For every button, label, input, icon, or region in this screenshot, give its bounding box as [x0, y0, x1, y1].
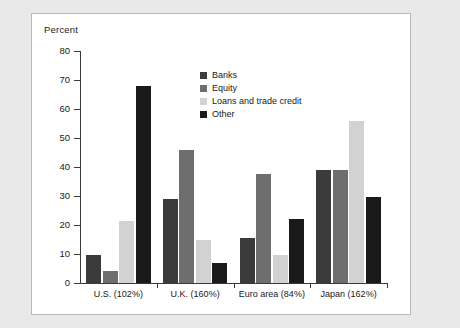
legend-item: Banks — [200, 69, 302, 81]
y-axis-tick-label: 20 — [59, 219, 70, 230]
bar-equity — [333, 170, 348, 283]
y-axis-tick-label: 0 — [65, 277, 70, 288]
x-axis-tick — [387, 283, 388, 288]
bar-banks — [316, 170, 331, 283]
x-axis-group-label: Japan (162%) — [310, 289, 387, 299]
bar-banks — [163, 199, 178, 283]
legend-label: Equity — [212, 83, 237, 93]
chart-legend: BanksEquityLoans and trade creditOther — [200, 69, 302, 121]
bar-banks — [240, 238, 255, 283]
bar-other — [289, 219, 304, 283]
bar-loans-and-trade-credit — [349, 121, 364, 283]
y-axis-tick-label: 30 — [59, 190, 70, 201]
bar-loans-and-trade-credit — [119, 221, 134, 283]
x-axis-group-label: U.K. (160%) — [157, 289, 234, 299]
y-axis-title: Percent — [44, 24, 78, 35]
x-axis-tick — [157, 283, 158, 288]
x-axis-tick — [234, 283, 235, 288]
bar-group: Japan (162%) — [310, 51, 387, 283]
legend-label: Other — [212, 109, 235, 119]
legend-label: Banks — [212, 70, 237, 80]
legend-item: Loans and trade credit — [200, 95, 302, 107]
y-axis-tick-label: 40 — [59, 161, 70, 172]
legend-swatch-icon — [200, 85, 207, 92]
y-axis-tick-label: 80 — [59, 45, 70, 56]
y-axis-tick-label: 60 — [59, 103, 70, 114]
page-background: Percent 01020304050607080 U.S. (102%)U.K… — [0, 0, 460, 328]
bar-loans-and-trade-credit — [196, 240, 211, 284]
bar-other — [136, 86, 151, 283]
y-axis-tick-label: 50 — [59, 132, 70, 143]
bar-equity — [256, 174, 271, 283]
chart-panel: Percent 01020304050607080 U.S. (102%)U.K… — [31, 13, 411, 315]
y-axis-tick-label: 10 — [59, 248, 70, 259]
legend-item: Equity — [200, 82, 302, 94]
legend-swatch-icon — [200, 111, 207, 118]
bar-loans-and-trade-credit — [273, 255, 288, 283]
bar-banks — [86, 255, 101, 283]
bar-other — [212, 263, 227, 283]
legend-swatch-icon — [200, 72, 207, 79]
legend-label: Loans and trade credit — [212, 96, 302, 106]
bar-equity — [179, 150, 194, 283]
x-axis-tick — [310, 283, 311, 288]
y-axis-tick: 0 — [74, 283, 80, 284]
x-axis-group-label: Euro area (84%) — [234, 289, 311, 299]
bar-group: U.S. (102%) — [80, 51, 157, 283]
bar-equity — [103, 271, 118, 283]
y-axis-tick-label: 70 — [59, 74, 70, 85]
legend-item: Other — [200, 108, 302, 120]
bar-other — [366, 197, 381, 283]
x-axis-group-label: U.S. (102%) — [80, 289, 157, 299]
legend-swatch-icon — [200, 98, 207, 105]
